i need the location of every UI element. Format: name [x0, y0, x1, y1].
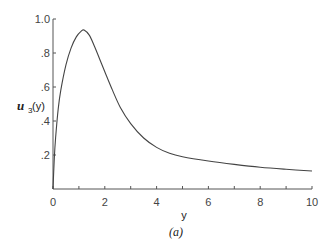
y-tick-label: 1.0	[35, 13, 50, 25]
x-tick-label: 4	[154, 196, 160, 208]
y-tick-label: .8	[41, 47, 50, 59]
series-line-u3	[53, 30, 312, 189]
y-tick-label: .2	[41, 149, 50, 161]
x-tick-label: 6	[205, 196, 211, 208]
line-chart: 0246810 .2.4.6.81.0 y (a) u 3 (y)	[0, 0, 331, 246]
svg-text:(y): (y)	[32, 100, 45, 112]
x-tick-label: 10	[306, 196, 318, 208]
x-tick-label: 2	[102, 196, 108, 208]
y-tick-label: .6	[41, 81, 50, 93]
svg-text:u: u	[17, 98, 24, 113]
y-tick-label: .4	[41, 115, 50, 127]
x-tick-label: 8	[257, 196, 263, 208]
figure-caption: (a)	[169, 225, 183, 239]
x-tick-label: 0	[50, 196, 56, 208]
y-axis-label: u 3 (y)	[17, 98, 45, 115]
x-axis-label: y	[181, 209, 187, 221]
axes	[53, 19, 312, 189]
